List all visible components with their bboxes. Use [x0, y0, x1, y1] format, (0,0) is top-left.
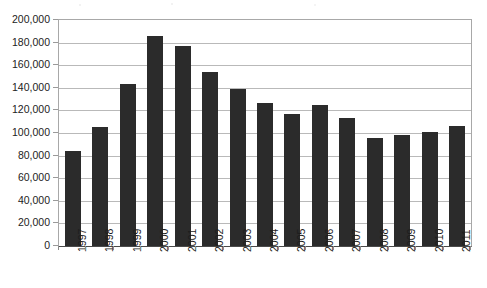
- x-axis-tick-mark: [85, 246, 86, 250]
- x-axis-tick-mark: [250, 246, 251, 250]
- y-axis-tick-label: 40,000: [0, 195, 50, 205]
- bar-chart: 200,000180,000160,000140,000120,000100,0…: [0, 0, 487, 288]
- x-axis-tick-mark: [168, 246, 169, 250]
- bar: [175, 46, 191, 246]
- x-axis-tick-mark: [333, 246, 334, 250]
- y-axis-tick-label: 200,000: [0, 14, 50, 24]
- y-axis-tick-label: 60,000: [0, 172, 50, 182]
- x-axis-tick-mark: [58, 246, 59, 250]
- bar: [230, 89, 246, 246]
- plot-area: [58, 19, 472, 247]
- bar: [202, 72, 218, 246]
- bar: [257, 103, 273, 247]
- y-axis-tick-label: 140,000: [0, 82, 50, 92]
- y-axis-tick-label: 20,000: [0, 217, 50, 227]
- y-axis-tick-label: 160,000: [0, 59, 50, 69]
- x-axis-tick-mark: [360, 246, 361, 250]
- x-axis-tick-mark: [223, 246, 224, 250]
- y-axis-tick-label: 180,000: [0, 37, 50, 47]
- x-axis: 1997199819992000200120022003200420052006…: [58, 246, 472, 288]
- x-axis-tick-mark: [278, 246, 279, 250]
- x-axis-tick-mark: [195, 246, 196, 250]
- bar: [284, 114, 300, 246]
- y-axis-tick-label: 80,000: [0, 150, 50, 160]
- bar: [339, 118, 355, 246]
- x-axis-tick-mark: [470, 246, 471, 250]
- x-axis-tick-mark: [113, 246, 114, 250]
- bars-group: [59, 20, 471, 246]
- bar: [147, 36, 163, 246]
- x-axis-tick-mark: [305, 246, 306, 250]
- y-axis-tick-label: 120,000: [0, 104, 50, 114]
- x-axis-tick-mark: [388, 246, 389, 250]
- scan-artifact: [60, 2, 360, 7]
- x-axis-tick-mark: [140, 246, 141, 250]
- bar: [312, 105, 328, 246]
- y-axis: 200,000180,000160,000140,000120,000100,0…: [0, 0, 58, 288]
- bar: [120, 84, 136, 246]
- x-axis-tick-mark: [443, 246, 444, 250]
- x-axis-tick-mark: [415, 246, 416, 250]
- y-axis-tick-label: 0: [0, 240, 50, 250]
- y-axis-tick-label: 100,000: [0, 127, 50, 137]
